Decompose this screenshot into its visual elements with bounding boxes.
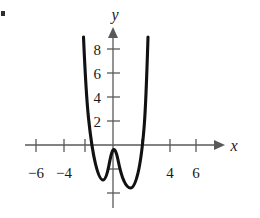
coordinate-plane-svg: −6 −4 4 6 8 6 4 2 x y — [0, 0, 260, 218]
graph-figure: −6 −4 4 6 8 6 4 2 x y — [0, 0, 260, 218]
y-tick-label-6: 6 — [94, 66, 102, 82]
y-axis-arrowhead — [108, 27, 118, 38]
x-axis-arrowhead — [214, 140, 225, 150]
x-tick-label--6: −6 — [28, 165, 44, 181]
y-tick-label-8: 8 — [94, 42, 102, 58]
x-tick-label-6: 6 — [192, 165, 200, 181]
y-tick-label-4: 4 — [94, 90, 102, 106]
y-axis-label: y — [109, 6, 119, 24]
corner-mark — [1, 11, 5, 16]
y-axis — [107, 27, 120, 208]
y-tick-label-2: 2 — [94, 114, 102, 130]
polynomial-curve — [84, 37, 149, 188]
x-tick-label--4: −4 — [56, 165, 72, 181]
x-axis — [25, 139, 225, 152]
x-tick-label-4: 4 — [166, 165, 174, 181]
x-axis-label: x — [229, 137, 237, 154]
